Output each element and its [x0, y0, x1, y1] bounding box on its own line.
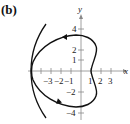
y-tick-label: −2: [66, 87, 76, 97]
polar-graph: −3 −2 −1 1 2 3 4 2 1 −2 −4 x y: [0, 0, 130, 124]
x-tick-label: −2: [54, 76, 64, 86]
y-tick-label: 4: [72, 24, 77, 34]
y-tick-label: 2: [72, 45, 77, 55]
y-axis-arrow-icon: [79, 14, 83, 19]
x-tick-label: 3: [108, 76, 113, 86]
direction-arrow-icon: [62, 34, 67, 40]
y-tick-label: −4: [66, 108, 76, 118]
y-axis-label: y: [77, 4, 82, 14]
y-tick-label: 1: [72, 55, 77, 65]
x-tick-label: 2: [98, 76, 103, 86]
x-tick-label: −1: [64, 76, 74, 86]
x-axis-label: x: [123, 66, 128, 76]
x-tick-label: −3: [43, 76, 53, 86]
